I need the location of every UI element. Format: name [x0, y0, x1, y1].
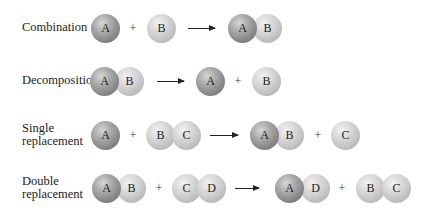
- row-label: Combination: [22, 21, 87, 34]
- atom-sphere: A: [228, 14, 257, 43]
- plus-sign: +: [235, 74, 242, 89]
- atom-sphere: B: [147, 14, 176, 43]
- plus-sign: +: [130, 128, 137, 143]
- atom-sphere: C: [172, 121, 201, 150]
- atom-sphere: A: [90, 67, 119, 96]
- atom-sphere: B: [275, 121, 304, 150]
- atom-sphere: D: [197, 174, 226, 203]
- row-label-line2: replacement: [22, 135, 83, 148]
- row-label-line2: replacement: [22, 188, 83, 201]
- atom-sphere: C: [382, 174, 411, 203]
- plus-sign: +: [315, 128, 322, 143]
- plus-sign: +: [156, 181, 163, 196]
- atom-sphere: A: [91, 121, 120, 150]
- reaction-arrow-icon: [157, 81, 184, 82]
- atom-sphere: A: [92, 174, 121, 203]
- plus-sign: +: [130, 21, 137, 36]
- atom-sphere: A: [91, 14, 120, 43]
- atom-sphere: B: [146, 121, 175, 150]
- atom-sphere: B: [253, 14, 282, 43]
- atom-sphere: A: [250, 121, 279, 150]
- atom-sphere: D: [301, 174, 330, 203]
- plus-sign: +: [339, 181, 346, 196]
- reaction-arrow-icon: [188, 28, 215, 29]
- atom-sphere: B: [117, 174, 146, 203]
- reaction-arrow-icon: [235, 188, 259, 189]
- atom-sphere: B: [252, 67, 281, 96]
- atom-sphere: B: [356, 174, 385, 203]
- reaction-arrow-icon: [210, 135, 238, 136]
- row-label: Decomposition: [22, 74, 98, 87]
- atom-sphere: A: [275, 174, 304, 203]
- atom-sphere: C: [331, 121, 360, 150]
- atom-sphere: A: [196, 67, 225, 96]
- atom-sphere: B: [115, 67, 144, 96]
